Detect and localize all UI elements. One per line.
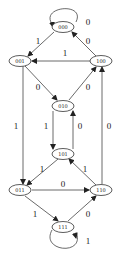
state-diagram: 000 001 100 010 101 011 110 111 0 1 0 1 … bbox=[0, 0, 122, 259]
node-label-101: 101 bbox=[58, 151, 68, 157]
edge-label-001-010: 0 bbox=[36, 82, 41, 92]
edge-label-011-110: 0 bbox=[61, 179, 66, 189]
edge-label-011-111: 1 bbox=[33, 209, 38, 219]
node-label-010: 010 bbox=[58, 103, 68, 109]
edge-111-110 bbox=[68, 196, 96, 221]
edge-label-010-100: 0 bbox=[86, 82, 91, 92]
edge-label-101-010: 0 bbox=[78, 121, 83, 131]
node-label-100: 100 bbox=[96, 58, 106, 64]
edge-010-100 bbox=[69, 67, 96, 100]
node-label-001: 001 bbox=[15, 58, 25, 64]
node-label-111: 111 bbox=[58, 224, 68, 230]
edge-label-010-101: 1 bbox=[44, 121, 49, 131]
edge-label-110-101: 1 bbox=[83, 164, 88, 174]
edge-000-001 bbox=[28, 32, 54, 56]
edge-label-100-001: 1 bbox=[63, 48, 68, 58]
edge-label-000-001: 1 bbox=[36, 36, 41, 46]
node-label-000: 000 bbox=[58, 24, 68, 30]
edge-label-110-100: 0 bbox=[107, 121, 112, 131]
edge-label-000-000: 0 bbox=[86, 17, 91, 27]
edge-001-010 bbox=[25, 66, 57, 100]
edge-label-001-011: 1 bbox=[14, 121, 19, 131]
edge-label-111-111: 1 bbox=[86, 236, 91, 246]
node-label-110: 110 bbox=[96, 187, 106, 193]
edge-100-000 bbox=[72, 32, 96, 56]
edge-011-111 bbox=[25, 196, 58, 221]
edge-label-111-110: 0 bbox=[86, 209, 91, 219]
node-label-011: 011 bbox=[15, 187, 25, 193]
edge-label-100-000: 0 bbox=[86, 36, 91, 46]
edge-label-101-011: 1 bbox=[40, 164, 45, 174]
